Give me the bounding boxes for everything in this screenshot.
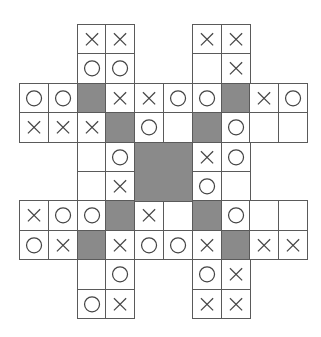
shaded-cell	[221, 230, 251, 261]
shaded-cell	[221, 83, 251, 114]
grid-cell[interactable]	[19, 112, 49, 143]
central-shaded-block	[134, 142, 193, 202]
grid-cell[interactable]	[192, 289, 222, 320]
grid-cell[interactable]	[221, 142, 251, 173]
grid-cell[interactable]	[192, 24, 222, 55]
circle-icon	[78, 290, 106, 319]
grid-cell[interactable]	[163, 230, 193, 261]
grid-cell[interactable]	[221, 53, 251, 84]
grid-cell[interactable]	[192, 230, 222, 261]
grid-cell[interactable]	[278, 230, 308, 261]
grid-cell[interactable]	[48, 230, 78, 261]
grid-cell[interactable]	[77, 200, 107, 231]
cross-icon	[279, 231, 307, 260]
circle-icon	[164, 231, 192, 260]
cross-icon	[20, 113, 48, 142]
grid-cell[interactable]	[105, 83, 135, 114]
grid-cell[interactable]	[249, 83, 279, 114]
grid-cell[interactable]	[221, 112, 251, 143]
circle-icon	[106, 260, 134, 289]
cross-icon	[193, 25, 221, 54]
grid-cell[interactable]	[77, 53, 107, 84]
grid-cell[interactable]	[192, 83, 222, 114]
circle-icon	[193, 84, 221, 113]
cross-icon	[106, 25, 134, 54]
grid-cell[interactable]	[48, 83, 78, 114]
grid-cell[interactable]	[19, 83, 49, 114]
cross-icon	[135, 84, 163, 113]
circle-icon	[20, 231, 48, 260]
grid-cell[interactable]	[134, 112, 164, 143]
cross-icon	[222, 290, 250, 319]
empty-cell[interactable]	[163, 112, 193, 143]
grid-cell[interactable]	[105, 53, 135, 84]
circle-icon	[222, 143, 250, 172]
shaded-cell	[105, 200, 135, 231]
cross-icon	[222, 25, 250, 54]
cross-icon	[193, 290, 221, 319]
grid-cell[interactable]	[105, 171, 135, 202]
empty-cell[interactable]	[163, 200, 193, 231]
shaded-cell	[192, 112, 222, 143]
cross-icon	[106, 84, 134, 113]
grid-cell[interactable]	[48, 112, 78, 143]
grid-cell[interactable]	[134, 83, 164, 114]
empty-cell[interactable]	[77, 171, 107, 202]
grid-cell[interactable]	[221, 24, 251, 55]
empty-cell[interactable]	[249, 200, 279, 231]
shaded-cell	[192, 200, 222, 231]
grid-cell[interactable]	[77, 24, 107, 55]
grid-cell[interactable]	[105, 259, 135, 290]
empty-cell[interactable]	[77, 142, 107, 173]
grid-cell[interactable]	[105, 230, 135, 261]
grid-cell[interactable]	[221, 289, 251, 320]
circle-icon	[164, 84, 192, 113]
circle-icon	[222, 113, 250, 142]
grid-cell[interactable]	[19, 200, 49, 231]
circle-icon	[20, 84, 48, 113]
empty-cell[interactable]	[278, 200, 308, 231]
cross-icon	[222, 54, 250, 83]
grid-cell[interactable]	[134, 200, 164, 231]
grid-cell[interactable]	[221, 200, 251, 231]
circle-icon	[78, 54, 106, 83]
cross-icon	[106, 290, 134, 319]
grid-cell[interactable]	[192, 171, 222, 202]
cross-icon	[250, 84, 278, 113]
empty-cell[interactable]	[278, 112, 308, 143]
grid-cell[interactable]	[105, 289, 135, 320]
grid-cell[interactable]	[192, 259, 222, 290]
circle-icon	[222, 201, 250, 230]
grid-cell[interactable]	[77, 112, 107, 143]
grid-cell[interactable]	[48, 200, 78, 231]
circle-icon	[135, 113, 163, 142]
grid-cell[interactable]	[77, 289, 107, 320]
cross-icon	[20, 201, 48, 230]
empty-cell[interactable]	[249, 112, 279, 143]
circle-icon	[106, 143, 134, 172]
grid-cell[interactable]	[192, 142, 222, 173]
grid-cell[interactable]	[105, 24, 135, 55]
cross-icon	[193, 231, 221, 260]
grid-cell[interactable]	[19, 230, 49, 261]
cross-icon	[250, 231, 278, 260]
empty-cell[interactable]	[192, 53, 222, 84]
grid-cell[interactable]	[134, 230, 164, 261]
shaded-cell	[77, 230, 107, 261]
puzzle-board	[19, 24, 307, 318]
empty-cell[interactable]	[77, 259, 107, 290]
cross-icon	[78, 25, 106, 54]
grid-cell[interactable]	[249, 230, 279, 261]
grid-cell[interactable]	[221, 259, 251, 290]
shaded-cell	[105, 112, 135, 143]
cross-icon	[222, 260, 250, 289]
circle-icon	[193, 172, 221, 201]
cross-icon	[106, 172, 134, 201]
grid-cell[interactable]	[105, 142, 135, 173]
cross-icon	[106, 231, 134, 260]
grid-cell[interactable]	[163, 83, 193, 114]
circle-icon	[78, 201, 106, 230]
circle-icon	[49, 201, 77, 230]
empty-cell[interactable]	[221, 171, 251, 202]
grid-cell[interactable]	[278, 83, 308, 114]
